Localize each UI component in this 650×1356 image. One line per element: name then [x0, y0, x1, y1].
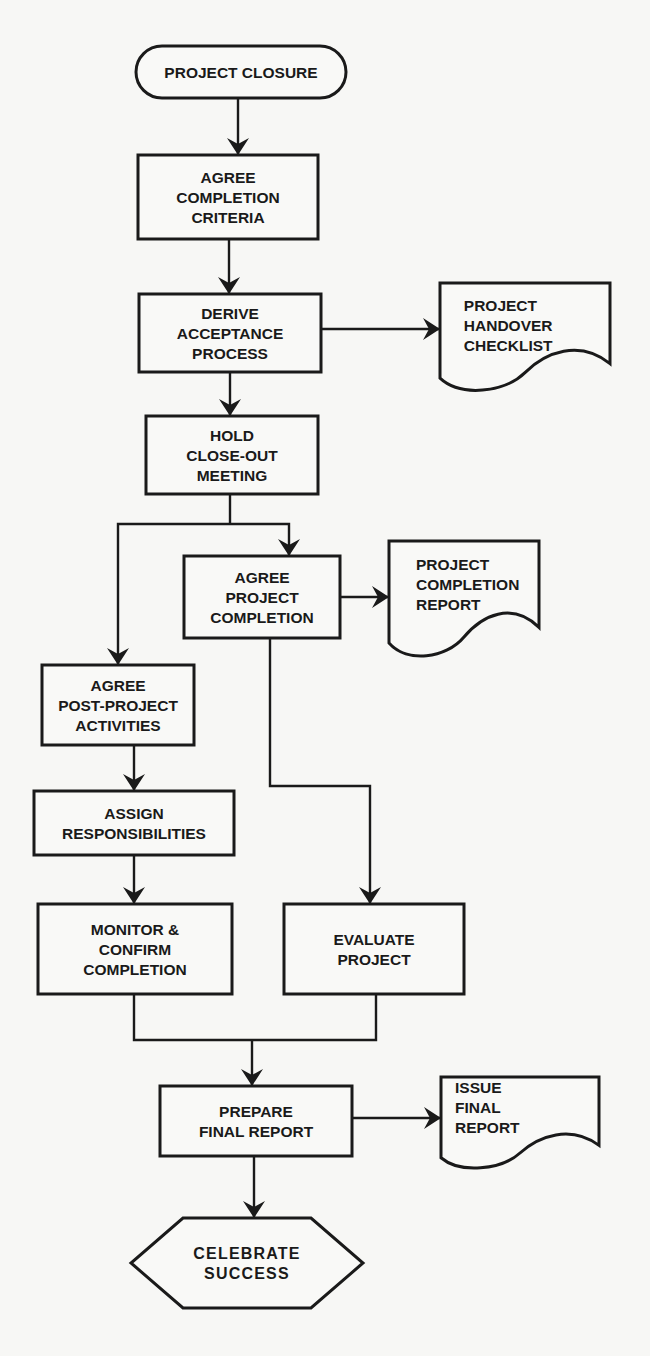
flowchart-canvas: PROJECT CLOSUREAGREECOMPLETIONCRITERIADE…	[0, 0, 650, 1356]
node-label-line: COMPLETION	[416, 576, 519, 593]
node-agree-post-project-activities: AGREEPOST-PROJECTACTIVITIES	[42, 665, 194, 745]
node-label-line: REPORT	[455, 1119, 520, 1136]
node-derive-acceptance-process: DERIVEACCEPTANCEPROCESS	[139, 294, 321, 372]
node-label-line: COMPLETION	[83, 961, 186, 978]
node-label-line: ASSIGN	[104, 805, 163, 822]
hexagon-shape	[131, 1218, 363, 1308]
node-label-line: PROJECT	[337, 951, 411, 968]
node-label-line: EVALUATE	[333, 931, 414, 948]
connector-completion-to-evaluate	[270, 638, 370, 904]
node-project-handover-checklist: PROJECTHANDOVERCHECKLIST	[440, 283, 610, 390]
node-evaluate-project: EVALUATEPROJECT	[284, 904, 464, 994]
node-project-completion-report: PROJECTCOMPLETIONREPORT	[389, 541, 539, 656]
connectors	[107, 98, 441, 1218]
nodes: PROJECT CLOSUREAGREECOMPLETIONCRITERIADE…	[34, 46, 610, 1308]
node-label-line: AGREE	[200, 169, 255, 186]
node-label-line: FINAL	[455, 1099, 501, 1116]
node-label-line: AGREE	[90, 677, 145, 694]
process-shape	[34, 791, 234, 855]
node-label-line: PROJECT	[464, 297, 538, 314]
node-label-line: HANDOVER	[464, 317, 553, 334]
node-label-line: COMPLETION	[210, 609, 313, 626]
node-label-line: RESPONSIBILITIES	[62, 825, 206, 842]
process-shape	[284, 904, 464, 994]
node-label-line: CONFIRM	[99, 941, 171, 958]
node-prepare-final-report: PREPAREFINAL REPORT	[160, 1086, 352, 1156]
node-label-line: CRITERIA	[191, 209, 264, 226]
node-label-line: AGREE	[234, 569, 289, 586]
node-agree-project-completion: AGREEPROJECTCOMPLETION	[184, 556, 340, 638]
node-label-line: CELEBRATE	[193, 1245, 300, 1262]
node-label-line: FINAL REPORT	[199, 1123, 314, 1140]
node-label-line: CLOSE-OUT	[186, 447, 278, 464]
node-celebrate-success: CELEBRATESUCCESS	[131, 1218, 363, 1308]
node-agree-completion-criteria: AGREECOMPLETIONCRITERIA	[138, 155, 318, 239]
node-label-line: COMPLETION	[176, 189, 279, 206]
node-label-line: PROJECT	[416, 556, 490, 573]
node-label-line: REPORT	[416, 596, 481, 613]
node-label-line: PROJECT	[225, 589, 299, 606]
node-label-line: PREPARE	[219, 1103, 293, 1120]
node-label-line: ACCEPTANCE	[177, 325, 284, 342]
node-label-line: ISSUE	[455, 1079, 502, 1096]
process-shape	[160, 1086, 352, 1156]
node-label-line: SUCCESS	[204, 1265, 290, 1282]
node-hold-close-out-meeting: HOLDCLOSE-OUTMEETING	[146, 416, 318, 494]
node-issue-final-report: ISSUEFINALREPORT	[441, 1077, 599, 1168]
node-label-line: HOLD	[210, 427, 254, 444]
node-label-line: CHECKLIST	[464, 337, 553, 354]
connector-merge	[134, 994, 376, 1040]
node-label-line: MONITOR &	[91, 921, 179, 938]
node-monitor-confirm-completion: MONITOR &CONFIRMCOMPLETION	[38, 904, 232, 994]
node-label-line: PROCESS	[192, 345, 268, 362]
node-label-line: MEETING	[197, 467, 268, 484]
node-label-line: ACTIVITIES	[75, 717, 160, 734]
node-label-line: PROJECT CLOSURE	[164, 64, 317, 81]
node-label-line: POST-PROJECT	[58, 697, 178, 714]
node-label-line: DERIVE	[201, 305, 259, 322]
node-assign-responsibilities: ASSIGNRESPONSIBILITIES	[34, 791, 234, 855]
node-project-closure: PROJECT CLOSURE	[136, 46, 346, 98]
